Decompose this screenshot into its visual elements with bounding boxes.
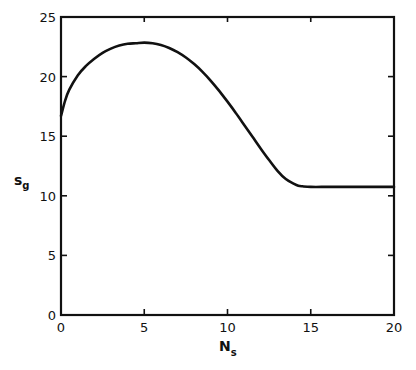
- chart: 051015200510152025 sg Ns: [0, 0, 416, 370]
- y-tick-label: 5: [48, 248, 56, 263]
- x-tick-label: 10: [219, 320, 236, 335]
- x-tick-label: 0: [57, 320, 65, 335]
- y-tick-label: 20: [39, 70, 56, 85]
- plot-frame: [61, 17, 394, 315]
- y-tick-label: 10: [39, 189, 56, 204]
- y-axis-label: sg: [14, 172, 30, 191]
- tick-marks: [61, 17, 394, 315]
- x-axis-label: Ns: [219, 338, 237, 358]
- y-tick-label: 15: [39, 129, 56, 144]
- x-tick-label: 5: [140, 320, 148, 335]
- data-line: [61, 43, 394, 187]
- x-tick-label: 20: [386, 320, 403, 335]
- y-tick-label: 0: [48, 308, 56, 323]
- x-tick-label: 15: [302, 320, 319, 335]
- y-tick-label: 25: [39, 10, 56, 25]
